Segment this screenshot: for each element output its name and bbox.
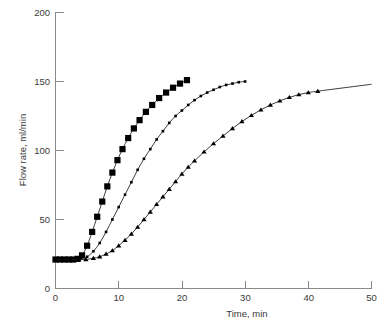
data-point — [249, 113, 254, 117]
data-point — [239, 119, 244, 123]
data-point — [98, 242, 101, 245]
data-point — [258, 107, 263, 111]
x-tick-label-20: 20 — [177, 292, 188, 303]
data-point — [156, 95, 162, 101]
data-point — [149, 102, 155, 108]
y-tick-marks — [56, 13, 65, 289]
data-point — [86, 255, 89, 258]
data-point — [136, 169, 139, 172]
data-point — [117, 206, 120, 209]
data-point — [111, 218, 114, 221]
data-point — [149, 148, 152, 151]
data-point — [92, 250, 95, 253]
data-point — [104, 183, 110, 189]
data-point — [187, 104, 190, 107]
data-point — [168, 122, 171, 125]
data-point — [163, 89, 169, 95]
data-point — [155, 138, 158, 141]
data-point — [130, 181, 133, 184]
x-tick-marks — [56, 281, 372, 289]
data-point — [84, 243, 90, 249]
x-axis-title: Time, min — [226, 308, 267, 319]
data-point — [131, 125, 137, 131]
data-point — [237, 81, 240, 84]
y-tick-label-0: 0 — [45, 283, 50, 294]
y-tick-label-50: 50 — [39, 214, 50, 225]
data-point — [89, 229, 95, 235]
chart-figure: 200 150 100 50 0 0 10 20 30 40 50 Time, … — [0, 0, 392, 327]
data-point — [124, 193, 127, 196]
data-point — [231, 82, 234, 85]
data-point — [181, 109, 184, 112]
data-point — [177, 80, 183, 86]
data-point — [143, 157, 146, 160]
data-point — [184, 77, 190, 83]
data-point — [268, 103, 273, 107]
data-point — [119, 146, 125, 152]
data-point — [212, 88, 215, 91]
data-point — [193, 99, 196, 102]
y-tick-labels: 200 150 100 50 0 — [34, 7, 50, 294]
data-series-slow — [53, 84, 372, 261]
data-point — [174, 115, 177, 118]
data-point — [109, 169, 115, 175]
data-point — [105, 231, 108, 234]
x-tick-label-0: 0 — [53, 292, 58, 303]
y-tick-label-200: 200 — [34, 7, 50, 18]
curve-fast — [56, 80, 187, 259]
data-point — [136, 117, 142, 123]
data-series-fast — [52, 77, 190, 263]
x-tick-label-10: 10 — [114, 292, 125, 303]
data-point — [206, 91, 209, 94]
data-point — [244, 80, 247, 83]
data-point — [200, 95, 203, 98]
chart-plot-area: 200 150 100 50 0 0 10 20 30 40 50 Time, … — [0, 0, 392, 327]
data-series-layer — [52, 77, 371, 263]
curve-slow — [56, 84, 372, 259]
data-point — [94, 214, 100, 220]
data-point — [162, 130, 165, 133]
data-point — [99, 198, 105, 204]
x-tick-label-50: 50 — [366, 292, 377, 303]
x-tick-label-30: 30 — [240, 292, 251, 303]
data-point — [225, 84, 228, 87]
y-tick-label-100: 100 — [34, 145, 50, 156]
curve-medium — [56, 82, 246, 260]
x-tick-labels: 0 10 20 30 40 50 — [53, 292, 377, 303]
data-point — [170, 85, 176, 91]
data-point — [103, 252, 108, 256]
data-point — [125, 135, 131, 141]
x-tick-label-40: 40 — [303, 292, 314, 303]
y-tick-label-150: 150 — [34, 76, 50, 87]
data-point — [143, 109, 149, 115]
data-point — [114, 157, 120, 163]
y-axis-title: Flow rate, ml/min — [17, 114, 28, 186]
data-point — [219, 86, 222, 89]
